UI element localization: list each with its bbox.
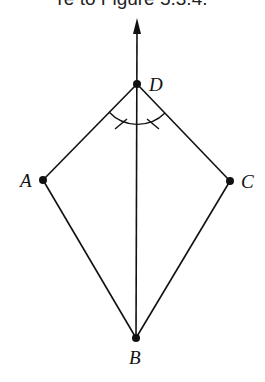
kite-diagram: D A C B <box>0 0 265 382</box>
segment-DC <box>137 84 230 181</box>
label-C: C <box>241 171 254 192</box>
segments <box>43 30 230 338</box>
label-B: B <box>129 347 141 368</box>
ray-BD <box>136 30 137 338</box>
label-A: A <box>18 170 32 191</box>
point-D <box>133 80 141 88</box>
point-B <box>132 334 140 342</box>
segment-AB <box>43 180 136 338</box>
arrowhead-icon <box>133 18 141 34</box>
point-A <box>39 176 47 184</box>
label-D: D <box>148 74 163 95</box>
segment-CB <box>136 181 230 338</box>
point-C <box>226 177 234 185</box>
segment-DA <box>43 84 137 180</box>
angle-tick-right <box>147 119 159 129</box>
